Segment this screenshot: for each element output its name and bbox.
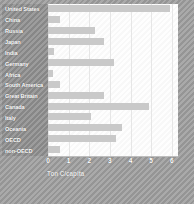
bar-germany xyxy=(48,59,114,66)
bar-canada xyxy=(48,103,149,110)
bar-row xyxy=(48,91,178,102)
x-tick-4: 4 xyxy=(129,157,133,164)
category-label-oceania: Oceania xyxy=(2,123,48,134)
category-label-china: China xyxy=(2,15,48,26)
category-label-japan: Japan xyxy=(2,37,48,48)
x-tick-3: 3 xyxy=(108,157,112,164)
category-label-germany: Germany xyxy=(2,58,48,69)
category-label-russia: Russia xyxy=(2,26,48,37)
bar-row xyxy=(48,134,178,145)
x-tick-6: 6 xyxy=(170,157,174,164)
x-tick-0: 0 xyxy=(46,157,50,164)
category-label-panel: United StatesChinaRussiaJapanIndiaGerman… xyxy=(2,4,48,156)
x-tick-1: 1 xyxy=(67,157,71,164)
bar-china xyxy=(48,16,60,23)
bar-row xyxy=(48,102,178,113)
bar-row xyxy=(48,4,178,15)
category-label-south-america: South America xyxy=(2,80,48,91)
category-label-united-states: United States xyxy=(2,4,48,15)
x-tick-2: 2 xyxy=(87,157,91,164)
bar-south-america xyxy=(48,81,60,88)
bar-row xyxy=(48,58,178,69)
bar-row xyxy=(48,37,178,48)
bar-non-oecd xyxy=(48,146,60,153)
bar-row xyxy=(48,69,178,80)
bar-russia xyxy=(48,27,95,34)
category-label-oecd: OECD xyxy=(2,134,48,145)
category-label-non-oecd: non-OECD xyxy=(2,145,48,156)
bar-india xyxy=(48,48,54,55)
category-label-africa: Africa xyxy=(2,69,48,80)
bar-row xyxy=(48,15,178,26)
bar-row xyxy=(48,47,178,58)
category-label-italy: Italy xyxy=(2,113,48,124)
bar-chart-figure: United StatesChinaRussiaJapanIndiaGerman… xyxy=(0,0,194,204)
bar-row xyxy=(48,112,178,123)
bar-africa xyxy=(48,70,53,77)
category-label-canada: Canada xyxy=(2,102,48,113)
bar-japan xyxy=(48,38,104,45)
x-axis-label: Ton C/capita xyxy=(47,170,84,177)
bar-row xyxy=(48,123,178,134)
category-label-india: India xyxy=(2,47,48,58)
bar-united-states xyxy=(48,5,170,12)
bar-oecd xyxy=(48,135,116,142)
bar-great-britain xyxy=(48,92,104,99)
category-label-great-britain: Great Britain xyxy=(2,91,48,102)
bar-row xyxy=(48,145,178,156)
bar-row xyxy=(48,26,178,37)
bar-italy xyxy=(48,113,91,120)
bar-series xyxy=(48,4,178,156)
bar-oceania xyxy=(48,124,122,131)
x-tick-5: 5 xyxy=(149,157,153,164)
bar-row xyxy=(48,80,178,91)
